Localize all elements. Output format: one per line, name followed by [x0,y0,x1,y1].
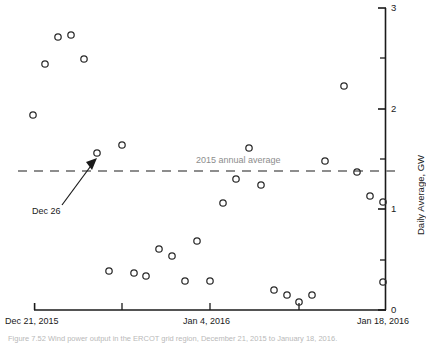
y-tick-label-0: 0 [391,305,396,315]
y-tick-label-1: 1 [391,204,396,214]
dec-26-annotation-label: Dec 26 [32,206,61,216]
data-point [309,292,315,298]
y-axis-title: Daily Average, GW [415,155,426,235]
data-point [322,158,328,164]
data-point [182,278,188,284]
data-point [367,193,373,199]
x-tick-label-end: Jan 18, 2016 [357,317,409,326]
data-point [81,56,87,62]
y-tick-label-3: 3 [391,3,396,13]
data-point [233,176,239,182]
x-tick-label-mid: Jan 4, 2016 [183,317,230,326]
data-point [94,150,100,156]
annual-average-label: 2015 annual average [196,155,281,165]
data-point [131,270,137,276]
data-point [220,200,226,206]
data-point [30,112,36,118]
data-point-group [30,32,386,305]
data-point [55,34,61,40]
data-point [284,292,290,298]
data-point [258,182,264,188]
data-point [119,142,125,148]
data-point [271,287,277,293]
data-point [341,83,347,89]
data-point [207,278,213,284]
dec-26-annotation-arrow [62,158,97,205]
data-point [194,238,200,244]
data-point [42,61,48,67]
y-tick-label-2: 2 [391,104,396,114]
data-point [156,246,162,252]
data-point [106,268,112,274]
x-tick-label-start: Dec 21, 2015 [5,317,59,326]
figure-caption: Figure 7.52 Wind power output in the ERC… [8,334,337,343]
data-point [143,273,149,279]
data-point [169,253,175,259]
data-point [68,32,74,38]
data-point [246,145,252,151]
